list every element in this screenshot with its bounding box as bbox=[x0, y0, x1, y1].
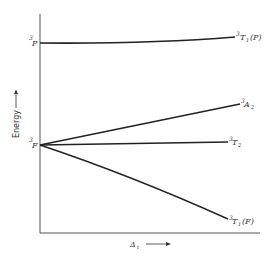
label-3P: 3 P bbox=[29, 34, 38, 48]
svg-text:Δ: Δ bbox=[129, 240, 136, 249]
y-axis-label: Energy bbox=[12, 90, 21, 138]
svg-text:1: 1 bbox=[246, 37, 249, 43]
svg-text:Energy: Energy bbox=[12, 110, 21, 138]
svg-text:(F): (F) bbox=[242, 217, 254, 226]
svg-text:F: F bbox=[31, 141, 38, 150]
label-3T2: 3 T 2 bbox=[229, 135, 241, 148]
label-3T1-F: 3 T 1 (F) bbox=[229, 214, 254, 227]
svg-text:2: 2 bbox=[237, 142, 241, 148]
line-3A2 bbox=[40, 104, 240, 145]
label-3F: 3 F bbox=[29, 136, 38, 150]
svg-text:t: t bbox=[137, 244, 140, 250]
svg-text:2: 2 bbox=[250, 104, 254, 110]
line-3T1-P bbox=[40, 37, 235, 43]
label-3T1-P: 3 T 1 (P) bbox=[236, 30, 262, 43]
x-axis-label: Δ t bbox=[129, 240, 171, 250]
svg-text:1: 1 bbox=[238, 221, 241, 227]
svg-text:(P): (P) bbox=[250, 33, 262, 42]
energy-diagram: 3 P 3 F 3 T 1 (P) 3 A 2 3 T 2 3 T 1 (F) … bbox=[0, 0, 272, 258]
svg-text:P: P bbox=[31, 39, 38, 48]
svg-text:A: A bbox=[243, 100, 250, 109]
label-3A2: 3 A 2 bbox=[241, 97, 254, 110]
line-3T1-F bbox=[40, 145, 228, 219]
line-3T2 bbox=[40, 142, 228, 145]
